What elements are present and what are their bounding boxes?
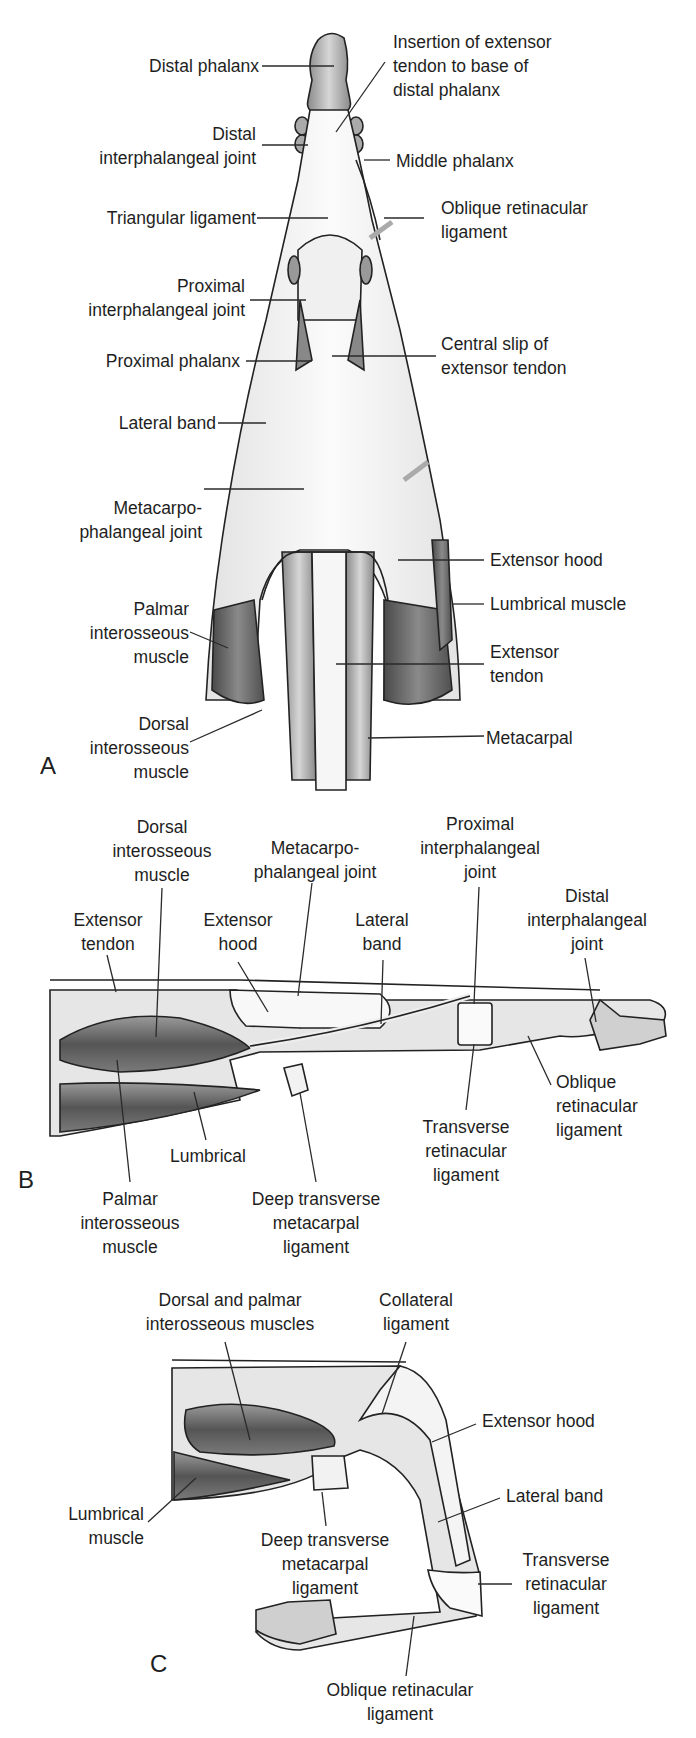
- label-triangular-ligament: Triangular ligament: [107, 206, 256, 230]
- label-proximal-phalanx: Proximal phalanx: [106, 349, 240, 373]
- label-lumbrical: Lumbrical: [160, 1144, 256, 1168]
- label-dorsal-and-palmar-interosseous-muscles: Dorsal and palmar interosseous muscles: [120, 1288, 340, 1336]
- label-oblique-retinacular-ligament: Oblique retinacular ligament: [441, 196, 588, 244]
- label-distal-interphalangeal-joint: Distal interphalangeal joint: [512, 884, 662, 956]
- label-palmar-interosseous-muscle: Palmar interosseous muscle: [90, 597, 189, 669]
- label-extensor-hood: Extensor hood: [482, 1409, 595, 1433]
- label-lumbrical-muscle: Lumbrical muscle: [68, 1502, 144, 1550]
- label-lateral-band: Lateral band: [119, 411, 216, 435]
- label-lateral-band: Lateral band: [340, 908, 424, 956]
- label-extensor-hood: Extensor hood: [190, 908, 286, 956]
- panel-letter-b: B: [18, 1166, 34, 1194]
- label-collateral-ligament: Collateral ligament: [356, 1288, 476, 1336]
- panel-letter-c: C: [150, 1650, 167, 1678]
- label-metacarpophalangeal-joint: Metacarpo- phalangeal joint: [79, 496, 202, 544]
- label-dorsal-interosseous-muscle: Dorsal interosseous muscle: [90, 712, 189, 784]
- label-deep-transverse-metacarpal-ligament: Deep transverse metacarpal ligament: [240, 1528, 410, 1600]
- label-central-slip: Central slip of extensor tendon: [441, 332, 567, 380]
- panel-c-art: [172, 1360, 482, 1650]
- panel-letter-a: A: [40, 752, 56, 780]
- label-extensor-hood: Extensor hood: [490, 548, 603, 572]
- label-insertion-extensor-tendon: Insertion of extensor tendon to base of …: [393, 30, 552, 102]
- label-extensor-tendon: Extensor tendon: [490, 640, 559, 688]
- label-oblique-retinacular-ligament: Oblique retinacular ligament: [556, 1070, 638, 1142]
- label-oblique-retinacular-ligament: Oblique retinacular ligament: [300, 1678, 500, 1726]
- label-transverse-retinacular-ligament: Transverse retinacular ligament: [406, 1115, 526, 1187]
- label-proximal-interphalangeal-joint: Proximal interphalangeal joint: [88, 274, 245, 322]
- label-deep-transverse-metacarpal-ligament: Deep transverse metacarpal ligament: [236, 1187, 396, 1259]
- label-distal-interphalangeal-joint: Distal interphalangeal joint: [99, 122, 256, 170]
- label-metacarpal: Metacarpal: [486, 726, 573, 750]
- label-proximal-interphalangeal-joint: Proximal interphalangeal joint: [400, 812, 560, 884]
- label-palmar-interosseous-muscle: Palmar interosseous muscle: [70, 1187, 190, 1259]
- label-dorsal-interosseous-muscle: Dorsal interosseous muscle: [102, 815, 222, 887]
- label-extensor-tendon: Extensor tendon: [60, 908, 156, 956]
- label-transverse-retinacular-ligament: Transverse retinacular ligament: [516, 1548, 616, 1620]
- label-distal-phalanx: Distal phalanx: [149, 54, 259, 78]
- label-lumbrical-muscle: Lumbrical muscle: [490, 592, 626, 616]
- label-metacarpophalangeal-joint: Metacarpo- phalangeal joint: [230, 836, 400, 884]
- label-middle-phalanx: Middle phalanx: [396, 149, 514, 173]
- label-lateral-band: Lateral band: [506, 1484, 603, 1508]
